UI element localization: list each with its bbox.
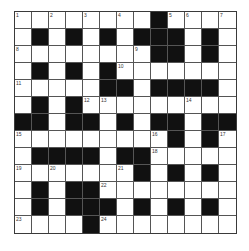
grid-cell[interactable]: 8 [15, 46, 32, 63]
grid-cell[interactable] [185, 165, 202, 182]
grid-cell[interactable] [32, 131, 49, 148]
grid-cell[interactable]: 20 [49, 165, 66, 182]
grid-cell[interactable]: 9 [134, 46, 151, 63]
grid-cell[interactable] [49, 114, 66, 131]
grid-cell[interactable] [117, 29, 134, 46]
grid-cell[interactable] [134, 97, 151, 114]
grid-cell[interactable]: 17 [219, 131, 236, 148]
grid-cell[interactable] [185, 148, 202, 165]
grid-cell[interactable]: 1 [15, 12, 32, 29]
grid-cell[interactable] [100, 12, 117, 29]
grid-cell[interactable] [134, 131, 151, 148]
grid-cell[interactable] [219, 199, 236, 216]
grid-cell[interactable] [66, 131, 83, 148]
grid-cell[interactable] [168, 97, 185, 114]
grid-cell[interactable] [185, 182, 202, 199]
grid-cell[interactable] [49, 216, 66, 233]
grid-cell[interactable] [202, 97, 219, 114]
grid-cell[interactable]: 23 [15, 216, 32, 233]
grid-cell[interactable] [83, 46, 100, 63]
grid-cell[interactable] [117, 182, 134, 199]
grid-cell[interactable] [134, 216, 151, 233]
grid-cell[interactable] [66, 165, 83, 182]
grid-cell[interactable] [185, 114, 202, 131]
grid-cell[interactable] [151, 63, 168, 80]
grid-cell[interactable] [32, 80, 49, 97]
grid-cell[interactable] [49, 63, 66, 80]
grid-cell[interactable] [66, 46, 83, 63]
grid-cell[interactable]: 22 [100, 182, 117, 199]
grid-cell[interactable] [32, 216, 49, 233]
grid-cell[interactable] [134, 182, 151, 199]
grid-cell[interactable] [151, 165, 168, 182]
grid-cell[interactable] [83, 165, 100, 182]
grid-cell[interactable] [134, 114, 151, 131]
grid-cell[interactable] [202, 182, 219, 199]
grid-cell[interactable] [32, 12, 49, 29]
grid-cell[interactable]: 4 [117, 12, 134, 29]
grid-cell[interactable] [219, 29, 236, 46]
grid-cell[interactable]: 3 [83, 12, 100, 29]
grid-cell[interactable] [219, 165, 236, 182]
grid-cell[interactable] [168, 182, 185, 199]
grid-cell[interactable]: 12 [83, 97, 100, 114]
grid-cell[interactable] [168, 216, 185, 233]
grid-cell[interactable] [202, 12, 219, 29]
grid-cell[interactable] [49, 29, 66, 46]
grid-cell[interactable] [219, 63, 236, 80]
grid-cell[interactable]: 19 [15, 165, 32, 182]
grid-cell[interactable]: 11 [15, 80, 32, 97]
grid-cell[interactable]: 18 [151, 148, 168, 165]
grid-cell[interactable] [100, 148, 117, 165]
grid-cell[interactable] [202, 148, 219, 165]
grid-cell[interactable] [32, 165, 49, 182]
grid-cell[interactable] [168, 148, 185, 165]
grid-cell[interactable] [100, 131, 117, 148]
grid-cell[interactable] [49, 46, 66, 63]
grid-cell[interactable] [185, 63, 202, 80]
grid-cell[interactable] [66, 216, 83, 233]
grid-cell[interactable] [66, 80, 83, 97]
grid-cell[interactable] [15, 148, 32, 165]
grid-cell[interactable] [151, 199, 168, 216]
grid-cell[interactable]: 14 [185, 97, 202, 114]
grid-cell[interactable] [32, 46, 49, 63]
grid-cell[interactable] [219, 80, 236, 97]
grid-cell[interactable] [219, 46, 236, 63]
grid-cell[interactable] [185, 131, 202, 148]
grid-cell[interactable] [168, 63, 185, 80]
grid-cell[interactable] [185, 29, 202, 46]
grid-cell[interactable]: 7 [219, 12, 236, 29]
grid-cell[interactable] [117, 131, 134, 148]
grid-cell[interactable] [49, 199, 66, 216]
grid-cell[interactable] [83, 63, 100, 80]
grid-cell[interactable] [134, 63, 151, 80]
grid-cell[interactable] [15, 97, 32, 114]
grid-cell[interactable] [219, 97, 236, 114]
grid-cell[interactable] [100, 46, 117, 63]
grid-cell[interactable]: 21 [117, 165, 134, 182]
grid-cell[interactable] [219, 216, 236, 233]
grid-cell[interactable] [66, 12, 83, 29]
grid-cell[interactable] [202, 216, 219, 233]
grid-cell[interactable] [117, 199, 134, 216]
grid-cell[interactable] [117, 46, 134, 63]
grid-cell[interactable] [117, 97, 134, 114]
grid-cell[interactable]: 5 [168, 12, 185, 29]
grid-cell[interactable] [219, 182, 236, 199]
grid-cell[interactable] [15, 182, 32, 199]
grid-cell[interactable] [185, 46, 202, 63]
grid-cell[interactable] [151, 182, 168, 199]
grid-cell[interactable]: 15 [15, 131, 32, 148]
grid-cell[interactable] [134, 80, 151, 97]
grid-cell[interactable] [185, 199, 202, 216]
grid-cell[interactable] [100, 165, 117, 182]
grid-cell[interactable] [100, 114, 117, 131]
grid-cell[interactable] [83, 131, 100, 148]
grid-cell[interactable] [15, 63, 32, 80]
grid-cell[interactable]: 6 [185, 12, 202, 29]
grid-cell[interactable] [49, 182, 66, 199]
grid-cell[interactable] [49, 80, 66, 97]
grid-cell[interactable] [117, 216, 134, 233]
grid-cell[interactable]: 16 [151, 131, 168, 148]
